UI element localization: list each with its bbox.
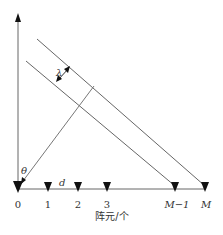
array-elements [13,181,209,193]
element-label-0: 0 [15,199,21,210]
axis-label: 阵元/个 [95,210,128,222]
ray-to-element-M [37,39,205,186]
element-marker-3 [103,182,111,192]
element-label-3: 3 [104,199,110,210]
vertical-axis [15,13,21,189]
element-label-M-1: M−1 [164,199,190,210]
element-label-M: M [200,199,212,210]
perpendicular-path-line [20,86,94,185]
lambda-label: λ [55,67,62,78]
spacing-label: d [59,177,65,188]
element-marker-2 [74,182,82,192]
wavelength-dimension: λ [55,66,70,82]
element-label-2: 2 [75,199,81,210]
ray-to-element-M-1 [26,61,175,186]
element-labels: 0 1 2 3 M−1 M [15,199,212,210]
element-label-1: 1 [45,199,51,210]
element-marker-M-1 [171,182,179,192]
arrow-up-icon [15,13,21,22]
wavefront-rays [26,39,205,186]
theta-label: θ [21,165,27,176]
array-geometry-diagram: λ θ d 0 1 2 3 M−1 M 阵元/个 [0,0,223,235]
element-marker-0 [13,181,23,193]
element-marker-1 [44,182,52,192]
element-marker-M [201,182,209,192]
